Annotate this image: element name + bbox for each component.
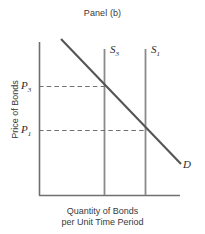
supply-curve-s3-label: S3	[110, 43, 119, 58]
y-tick-label-p1: P1	[21, 123, 31, 138]
y-axis-title: Price of Bonds	[10, 67, 21, 153]
y-tick-label-p3-text: P	[21, 79, 28, 91]
supply-curve-s1-label-subscript: 1	[157, 50, 161, 58]
bond-market-figure: Panel (b) Price of Bonds Quantity of Bon…	[0, 0, 205, 234]
demand-curve	[61, 39, 181, 164]
y-tick-label-p3-subscript: 3	[28, 86, 32, 94]
x-axis-title-line-1: Quantity of Bonds	[67, 206, 139, 216]
plot-area	[0, 0, 205, 234]
supply-curve-s1-label: S1	[151, 43, 160, 58]
supply-curve-s3-label-subscript: 3	[116, 50, 120, 58]
x-axis-title-line-2: per Unit Time Period	[0, 217, 205, 228]
x-axis-title: Quantity of Bonds per Unit Time Period	[0, 206, 205, 228]
y-tick-label-p3: P3	[21, 79, 31, 94]
y-tick-label-p1-subscript: 1	[28, 130, 32, 138]
y-tick-label-p1-text: P	[21, 123, 28, 135]
demand-curve-label: D	[183, 158, 191, 170]
